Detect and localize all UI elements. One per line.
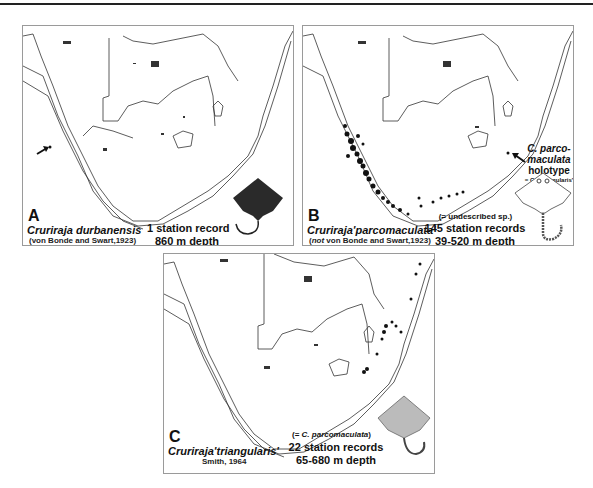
species-name: Cruriraja'parcomaculata' bbox=[307, 224, 436, 236]
species-name: Cruriraja durbanensis bbox=[27, 224, 141, 236]
station-records-points bbox=[343, 124, 510, 216]
species-authority: (not von Bonde and Swart,1923) bbox=[309, 236, 431, 245]
ray-illustration-icon bbox=[374, 394, 434, 462]
panel-letter: A bbox=[28, 207, 40, 225]
ray-illustration-icon bbox=[228, 176, 288, 236]
species-authority: Smith, 1964 bbox=[202, 457, 246, 466]
taxonomic-note: (= C. parcomaculata) bbox=[284, 430, 379, 439]
station-records: 1 station record bbox=[147, 222, 227, 234]
species-name: Cruriraja'triangularis' bbox=[168, 445, 279, 457]
taxonomic-note: (= undescribed sp.) bbox=[433, 212, 518, 221]
panel-b: C. parco- maculata holotype = C. 'triang… bbox=[302, 25, 574, 246]
panel-a: A Cruriraja durbanensis (von Bonde and S… bbox=[22, 25, 294, 246]
ray-illustration-icon bbox=[513, 171, 573, 243]
top-rule bbox=[0, 3, 593, 5]
panel-letter: B bbox=[308, 207, 320, 225]
depth-range: 860 m depth bbox=[147, 235, 227, 246]
panel-letter: C bbox=[169, 428, 181, 446]
arrow-icon bbox=[37, 146, 52, 155]
species-authority: (von Bonde and Swart,1923) bbox=[29, 236, 136, 245]
panel-c: C Cruriraja'triangularis' Smith, 1964 (=… bbox=[163, 253, 435, 474]
